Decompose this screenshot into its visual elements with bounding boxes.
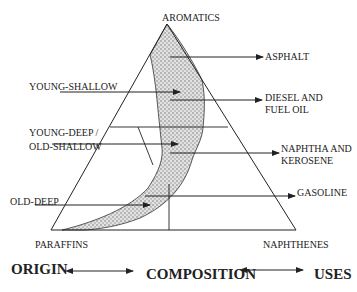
vertex-label-naphthenes: NAPHTHENES: [263, 239, 329, 250]
origin-label-old-deep: OLD-DEEP: [10, 196, 59, 207]
origin-label-young-shallow: YOUNG-SHALLOW: [29, 81, 118, 92]
footer-origin: ORIGIN: [11, 261, 68, 277]
vertex-label-aromatics: AROMATICS: [162, 12, 220, 23]
footer-composition: COMPOSITION: [146, 266, 256, 282]
use-label-gasoline: GASOLINE: [297, 187, 347, 198]
use-label-asphalt: ASPHALT: [265, 51, 309, 62]
origin-label-young-deep: YOUNG-DEEP /: [29, 127, 99, 138]
use-label-diesel-1: DIESEL AND: [265, 92, 323, 103]
use-label-diesel-2: FUEL OIL: [265, 104, 309, 115]
vertex-label-paraffins: PARAFFINS: [35, 239, 88, 250]
footer-uses: USES: [314, 266, 352, 282]
use-label-naphtha-1: NAPHTHA AND: [281, 143, 352, 154]
ternary-composition-diagram: AROMATICS PARAFFINS NAPHTHENES YOUNG-SHA…: [0, 0, 357, 292]
use-label-naphtha-2: KEROSENE: [281, 155, 333, 166]
inner-diagonal-line: [138, 127, 153, 165]
origin-label-old-shallow: OLD-SHALLOW: [29, 141, 102, 152]
